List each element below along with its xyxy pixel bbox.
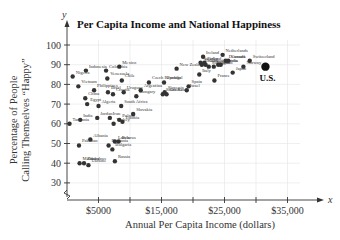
data-point bbox=[174, 66, 178, 70]
x-tick-label: $15,000 bbox=[145, 205, 178, 216]
data-point bbox=[120, 78, 124, 82]
data-point bbox=[82, 161, 86, 165]
data-point bbox=[111, 122, 115, 126]
data-point bbox=[134, 94, 138, 98]
data-point bbox=[86, 163, 90, 167]
data-point bbox=[212, 64, 216, 68]
point-label: Iran bbox=[113, 111, 121, 116]
data-point bbox=[111, 92, 115, 96]
y-tick-label: 30 bbox=[51, 177, 61, 188]
point-label: Russia bbox=[118, 154, 130, 159]
data-point bbox=[70, 74, 74, 78]
point-labels: NigeriaVietnamIndonesiaColombiaVenezuela… bbox=[73, 48, 276, 163]
point-label: Algeria bbox=[102, 99, 116, 104]
y-tick-label: 50 bbox=[51, 138, 61, 149]
point-label: Israel bbox=[190, 83, 201, 88]
data-point bbox=[110, 147, 114, 151]
y-axis-arrow-icon bbox=[65, 20, 70, 27]
point-label: Vietnam bbox=[81, 79, 97, 84]
us-highlight-point bbox=[261, 62, 269, 70]
x-axis-label: Annual Per Capita Income (dollars) bbox=[125, 219, 275, 231]
data-point bbox=[67, 122, 71, 126]
point-label: Netherlands bbox=[226, 48, 248, 53]
data-point bbox=[77, 161, 81, 165]
point-label: Chile bbox=[125, 73, 135, 78]
point-label: Indonesia bbox=[89, 64, 107, 69]
data-point bbox=[83, 96, 87, 100]
data-point bbox=[164, 92, 168, 96]
y-axis-label-line1: Percentage of People bbox=[8, 75, 19, 164]
y-tick-label: 60 bbox=[51, 118, 61, 129]
point-label: Norway bbox=[246, 60, 262, 65]
point-label: Portugal bbox=[167, 75, 183, 80]
us-label: U.S. bbox=[259, 73, 275, 83]
point-label: Switzerland bbox=[253, 54, 276, 59]
x-tick-label: $25,000 bbox=[208, 205, 241, 216]
y-ticks: 30405060708090100 bbox=[46, 40, 70, 189]
point-label: Greece bbox=[170, 87, 183, 92]
data-point bbox=[106, 90, 110, 94]
data-point bbox=[113, 159, 117, 163]
point-label: New Zealand bbox=[180, 62, 205, 67]
data-point bbox=[105, 76, 109, 80]
data-point bbox=[230, 70, 234, 74]
point-label: Estonia bbox=[125, 115, 139, 120]
y-tick-label: 70 bbox=[51, 99, 61, 110]
x-axis-arrow-icon bbox=[317, 198, 324, 203]
y-tick-label: 100 bbox=[46, 40, 61, 51]
point-label: Argentina bbox=[144, 83, 162, 88]
y-axis-label-line2: Calling Themselves “Happy” bbox=[20, 58, 31, 182]
data-point bbox=[161, 92, 165, 96]
point-label: South Africa bbox=[124, 99, 147, 104]
y-axis-label: Percentage of People Calling Themselves … bbox=[8, 58, 31, 182]
point-label: Zimbabwe bbox=[87, 156, 107, 161]
data-point bbox=[162, 80, 166, 84]
data-point bbox=[95, 116, 99, 120]
point-label: Slovakia bbox=[136, 107, 152, 112]
data-point bbox=[104, 68, 108, 72]
y-tick-label: 90 bbox=[51, 59, 61, 70]
point-label: France bbox=[217, 73, 230, 78]
point-label: Hungary bbox=[139, 89, 156, 94]
point-label: Italy bbox=[202, 68, 211, 73]
point-label: China bbox=[88, 91, 99, 96]
data-point bbox=[77, 143, 81, 147]
point-label: Egypt bbox=[90, 97, 102, 102]
point-label: Britain bbox=[205, 58, 218, 63]
point-label: Nigeria bbox=[76, 70, 90, 75]
data-point bbox=[119, 104, 123, 108]
point-label: Albania bbox=[93, 133, 108, 138]
point-label: Pakistan bbox=[82, 138, 98, 143]
point-label: Japan bbox=[236, 66, 247, 71]
y-axis-var: y bbox=[61, 9, 67, 20]
x-axis-var: x bbox=[327, 194, 333, 205]
data-point bbox=[108, 116, 112, 120]
point-label: Mexico bbox=[122, 60, 137, 65]
data-point bbox=[197, 72, 201, 76]
data-point bbox=[85, 102, 89, 106]
y-tick-label: 80 bbox=[51, 79, 61, 90]
y-tick-label: 40 bbox=[51, 158, 61, 169]
x-tick-label: $5000 bbox=[86, 205, 111, 216]
chart-title: Per Capita Income and National Happiness bbox=[77, 18, 281, 30]
data-point bbox=[212, 78, 216, 82]
point-label: Jordan bbox=[100, 111, 113, 116]
point-label: Bulgaria bbox=[115, 142, 131, 147]
x-tick-label: $35,000 bbox=[271, 205, 304, 216]
point-label: Tanzania bbox=[73, 117, 90, 122]
scatter-chart: y x Per Capita Income and National Happi… bbox=[0, 0, 340, 240]
data-point bbox=[106, 143, 110, 147]
point-label: Ireland bbox=[206, 50, 220, 55]
data-point bbox=[76, 84, 80, 88]
data-point bbox=[96, 104, 100, 108]
